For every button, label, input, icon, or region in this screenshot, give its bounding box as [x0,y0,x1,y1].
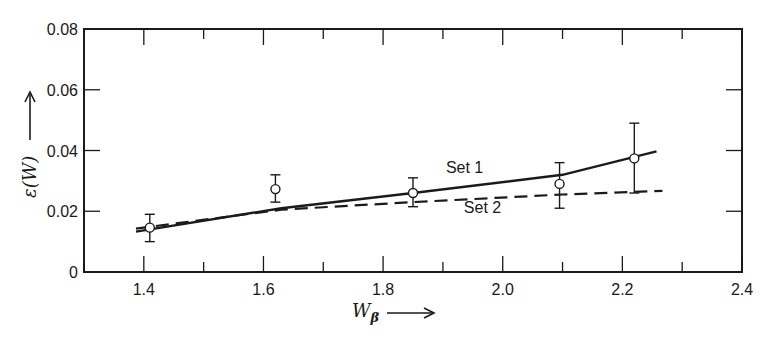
x-tick-label: 2.4 [731,281,753,298]
series-label-set-1: Set 1 [446,159,483,176]
y-axis-title: ε(W) [19,156,40,198]
y-tick-label: 0.04 [47,143,78,160]
data-point-marker [555,179,564,188]
y-tick-label: 0 [69,264,78,281]
y-axis-arrow-icon [25,92,35,140]
data-point-marker [630,154,639,163]
y-tick-label: 0.06 [47,82,78,99]
y-tick-label: 0.08 [47,21,78,38]
x-axis-title: Wβ [352,300,380,325]
series-line-set-2 [136,191,662,229]
x-tick-label: 2.2 [611,281,633,298]
plot-series [136,151,662,231]
x-tick-label: 1.8 [372,281,394,298]
chart: 1.41.61.82.02.22.400.020.040.060.08 Set … [0,0,766,338]
x-tick-label: 1.4 [133,281,155,298]
series-label-set-2: Set 2 [464,199,501,216]
x-tick-label: 2.0 [492,281,514,298]
data-point-marker [145,223,154,232]
data-point-marker [409,189,418,198]
plot-axes: 1.41.61.82.02.22.400.020.040.060.08 [47,21,753,298]
series-line-set-1 [136,151,657,231]
data-point-marker [271,185,280,194]
y-tick-label: 0.02 [47,203,78,220]
plot-frame [84,29,742,272]
data-points [145,123,640,241]
x-axis-arrow-icon [387,308,434,318]
x-tick-label: 1.6 [252,281,274,298]
